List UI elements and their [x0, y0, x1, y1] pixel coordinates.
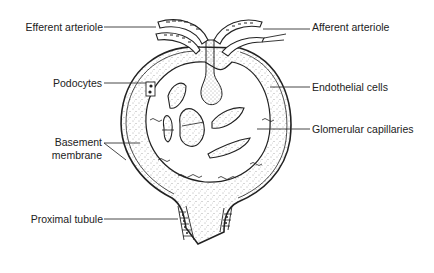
afferent-arteriole-vessel: [214, 20, 286, 56]
label-proximal-tubule: Proximal tubule: [5, 213, 103, 225]
podocyte-cell: [146, 82, 155, 96]
label-afferent-arteriole: Afferent arteriole: [312, 21, 389, 33]
label-podocytes: Podocytes: [20, 77, 102, 89]
label-endothelial-cells: Endothelial cells: [312, 81, 388, 93]
label-efferent-arteriole: Efferent arteriole: [5, 21, 103, 33]
label-basement-membrane-line1: Basement: [20, 136, 102, 148]
label-glomerular-capillaries: Glomerular capillaries: [312, 123, 414, 135]
label-basement-membrane-line2: membrane: [20, 149, 102, 161]
